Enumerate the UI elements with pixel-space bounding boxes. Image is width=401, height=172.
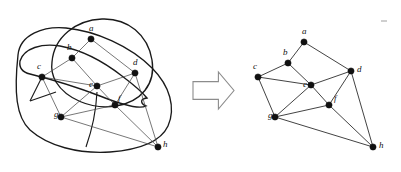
node-label-f: f [334, 93, 338, 103]
divider-e-down [86, 92, 97, 147]
speck-mark [381, 20, 387, 22]
node-f [326, 102, 332, 108]
node-label-h: h [379, 140, 384, 150]
node-h [370, 144, 376, 150]
edge-b-c [258, 63, 288, 77]
node-d [132, 70, 138, 76]
node-label-c: c [37, 61, 41, 71]
graph-figure: abcdefgh abcdefgh [0, 0, 401, 172]
node-b [285, 60, 291, 66]
right-edge-group [258, 42, 373, 147]
edge-d-f [329, 71, 351, 105]
edge-a-d [91, 39, 135, 73]
node-label-e: e [303, 79, 307, 89]
node-label-a: a [302, 26, 307, 36]
node-a [301, 39, 307, 45]
edge-g-h [275, 117, 373, 147]
node-e [308, 82, 314, 88]
edge-b-e [72, 58, 97, 86]
node-c [255, 74, 261, 80]
edge-e-g [275, 85, 311, 117]
node-label-d: d [133, 57, 138, 67]
speck-group [381, 20, 387, 22]
left-divider-group [30, 77, 97, 147]
edge-f-g [61, 105, 115, 117]
right-label-group: abcdefgh [253, 26, 384, 150]
node-g [58, 114, 64, 120]
figure-canvas: abcdefgh abcdefgh [0, 0, 401, 172]
node-label-d: d [357, 64, 362, 74]
node-a [88, 36, 94, 42]
edge-a-b [288, 42, 304, 63]
edge-b-c [42, 58, 72, 77]
edge-g-h [61, 117, 158, 147]
edge-d-h [351, 71, 373, 147]
node-label-c: c [253, 61, 257, 71]
edge-f-g [275, 105, 329, 117]
node-label-b: b [67, 42, 72, 52]
left-edge-group [42, 39, 158, 147]
node-e [94, 83, 100, 89]
node-label-g: g [268, 110, 273, 120]
node-h [155, 144, 161, 150]
edge-a-d [304, 42, 351, 71]
node-label-e: e [89, 79, 93, 89]
node-label-b: b [283, 47, 288, 57]
node-label-h: h [163, 139, 168, 149]
edge-d-e [311, 71, 351, 85]
edge-e-g [61, 86, 97, 117]
node-label-a: a [89, 23, 94, 33]
node-b [69, 55, 75, 61]
transform-arrow [193, 72, 234, 109]
node-label-g: g [54, 109, 59, 119]
node-d [348, 68, 354, 74]
edge-e-f [311, 85, 329, 105]
edge-d-e [97, 73, 135, 86]
node-g [272, 114, 278, 120]
transform-arrow-group [193, 72, 234, 109]
node-c [39, 74, 45, 80]
